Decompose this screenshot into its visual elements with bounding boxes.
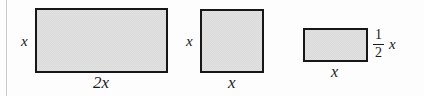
half-rectangle-width-label: x [331, 64, 338, 80]
fraction-numerator: 1 [374, 28, 383, 43]
column-rule-divider [6, 0, 7, 96]
wide-rectangle-height-label: x [21, 34, 28, 49]
geometry-figure: x 2x x x x 1 2 x [0, 0, 424, 96]
half-height-rectangle [303, 28, 368, 62]
square-shape [200, 9, 264, 73]
fraction-variable: x [389, 37, 396, 52]
wide-rectangle-width-label: 2x [93, 74, 109, 91]
half-rectangle-height-label: 1 2 x [373, 28, 396, 60]
square-width-label: x [228, 74, 236, 91]
one-half-fraction: 1 2 [373, 28, 384, 60]
wide-rectangle [35, 8, 168, 73]
square-height-label: x [186, 34, 193, 49]
fraction-denominator: 2 [374, 46, 383, 61]
